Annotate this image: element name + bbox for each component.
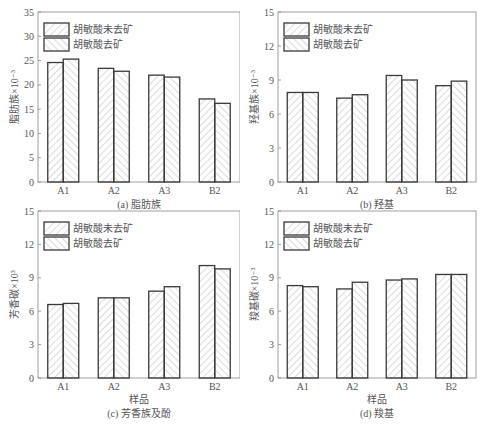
y-axis-label: 脂肪族×10⁻³ (8, 70, 20, 124)
bar (303, 287, 319, 378)
legend: 胡敏酸未去矿胡敏酸去矿 (284, 23, 373, 51)
y-tick-label: 30 (24, 31, 34, 42)
x-tick-label: A1 (57, 185, 69, 196)
y-tick-label: 15 (264, 206, 274, 217)
x-tick-label: A1 (297, 185, 309, 196)
chart-caption: (c) 芳香族及酚 (107, 407, 171, 420)
bar (98, 298, 114, 378)
x-tick-label: A1 (57, 381, 69, 392)
bar (436, 86, 452, 182)
bar (164, 77, 180, 182)
y-tick-label: 0 (29, 373, 34, 384)
chart-caption: (d) 羧基 (360, 407, 394, 420)
bar (63, 303, 79, 378)
chart-panel-a: 05101520253035脂肪族×10⁻³A1A2A3B2(a) 脂肪族胡敏酸… (0, 0, 240, 212)
bar (215, 103, 231, 182)
y-tick-label: 20 (24, 79, 34, 90)
chart-svg-c: 03691215芳香碳×10³A1A2A3B2样品(c) 芳香族及酚胡敏酸未去矿… (0, 205, 240, 429)
legend-label: 胡敏酸去矿 (73, 237, 123, 249)
bar (149, 75, 165, 182)
y-tick-label: 0 (29, 177, 34, 188)
y-tick-label: 6 (269, 306, 274, 317)
y-tick-label: 15 (24, 104, 34, 115)
bar (114, 71, 130, 182)
x-tick-label: A3 (396, 381, 408, 392)
chart-svg-d: 03691215羧基碳×10⁻³A1A2A3B2样品(d) 羧基胡敏酸未去矿胡敏… (240, 205, 480, 429)
y-tick-label: 6 (29, 306, 34, 317)
y-tick-label: 10 (24, 128, 34, 139)
y-tick-label: 9 (269, 75, 274, 86)
legend-swatch (44, 222, 69, 235)
bar (303, 92, 319, 182)
x-tick-label: B2 (209, 381, 221, 392)
legend-label: 胡敏酸未去矿 (313, 23, 373, 35)
legend-label: 胡敏酸未去矿 (73, 23, 133, 35)
bar (98, 68, 114, 182)
legend-label: 胡敏酸未去矿 (313, 222, 373, 234)
bar (164, 287, 180, 378)
bar (215, 269, 231, 378)
chart-panel-b: 03691215羟基族×10⁻³A1A2A3B2(b) 羟基胡敏酸未去矿胡敏酸去… (240, 0, 480, 212)
y-tick-label: 12 (264, 41, 274, 52)
bar (386, 75, 402, 182)
legend-label: 胡敏酸未去矿 (73, 222, 133, 234)
bar (386, 280, 402, 378)
bar (287, 286, 303, 378)
bar (337, 289, 353, 378)
bar (149, 291, 165, 378)
bar (287, 92, 303, 182)
x-tick-label: A2 (108, 185, 120, 196)
bar (436, 274, 452, 378)
y-tick-label: 0 (269, 373, 274, 384)
y-axis-label: 芳香碳×10³ (8, 270, 20, 319)
y-axis-label: 羧基碳×10⁻³ (248, 268, 260, 322)
x-tick-label: B2 (445, 185, 457, 196)
x-tick-label: B2 (445, 381, 457, 392)
y-tick-label: 12 (264, 239, 274, 250)
legend-swatch (44, 237, 69, 250)
y-tick-label: 9 (29, 272, 34, 283)
chart-panel-d: 03691215羧基碳×10⁻³A1A2A3B2样品(d) 羧基胡敏酸未去矿胡敏… (240, 205, 480, 429)
bar (402, 279, 418, 378)
bar (451, 81, 467, 182)
x-axis-label: 样品 (129, 393, 149, 405)
legend-swatch (44, 23, 69, 36)
y-tick-label: 3 (269, 339, 274, 350)
legend: 胡敏酸未去矿胡敏酸去矿 (284, 222, 373, 250)
y-tick-label: 12 (24, 239, 34, 250)
legend-label: 胡敏酸去矿 (313, 237, 363, 249)
legend-swatch (284, 23, 309, 36)
y-tick-label: 15 (264, 7, 274, 18)
bar (352, 95, 368, 182)
bar (199, 99, 215, 182)
bar (114, 298, 130, 378)
x-tick-label: B2 (209, 185, 221, 196)
legend-swatch (284, 38, 309, 51)
x-axis-label: 样品 (367, 393, 387, 405)
bar (63, 59, 79, 182)
y-tick-label: 9 (269, 272, 274, 283)
bar (451, 274, 467, 378)
x-tick-label: A1 (297, 381, 309, 392)
chart-svg-b: 03691215羟基族×10⁻³A1A2A3B2(b) 羟基胡敏酸未去矿胡敏酸去… (240, 0, 480, 212)
legend-swatch (284, 237, 309, 250)
x-tick-label: A2 (346, 185, 358, 196)
y-tick-label: 3 (29, 339, 34, 350)
y-tick-label: 5 (29, 152, 34, 163)
x-tick-label: A3 (158, 185, 170, 196)
x-tick-label: A3 (158, 381, 170, 392)
legend-label: 胡敏酸去矿 (313, 38, 363, 50)
bar (48, 305, 64, 378)
x-tick-label: A3 (396, 185, 408, 196)
y-tick-label: 35 (24, 7, 34, 18)
x-tick-label: A2 (108, 381, 120, 392)
bar (337, 98, 353, 182)
bar (402, 80, 418, 182)
y-tick-label: 6 (269, 109, 274, 120)
chart-panel-c: 03691215芳香碳×10³A1A2A3B2样品(c) 芳香族及酚胡敏酸未去矿… (0, 205, 240, 429)
legend: 胡敏酸未去矿胡敏酸去矿 (44, 222, 133, 250)
legend: 胡敏酸未去矿胡敏酸去矿 (44, 23, 133, 51)
y-axis-label: 羟基族×10⁻³ (248, 70, 260, 124)
y-tick-label: 0 (269, 177, 274, 188)
legend-swatch (284, 222, 309, 235)
